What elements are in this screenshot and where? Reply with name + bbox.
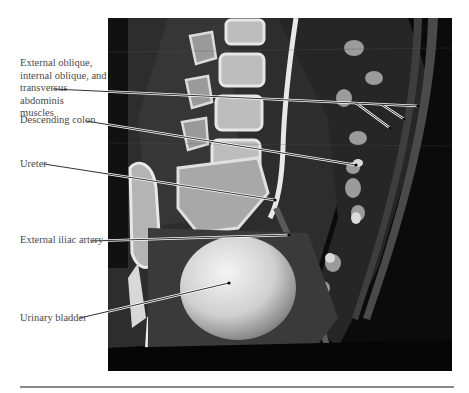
label-muscles-line-3: transversus abdominis xyxy=(20,82,110,107)
label-muscles-line-1: External oblique, xyxy=(20,57,110,70)
anatomy-figure: External oblique, internal oblique, and … xyxy=(0,0,469,393)
label-external-iliac-artery: External iliac artery xyxy=(20,234,103,247)
muscle-pointer-dot-3 xyxy=(388,126,391,129)
label-urinary-bladder: Urinary bladder xyxy=(20,312,87,325)
bottom-divider xyxy=(20,386,454,388)
ureter-pointer-dot xyxy=(273,198,276,201)
muscle-pointer-dot-2 xyxy=(402,117,405,120)
label-abdominal-muscles: External oblique, internal oblique, and … xyxy=(20,57,110,120)
label-descending-colon: Descending colon xyxy=(20,114,96,127)
label-muscles-line-2: internal oblique, and xyxy=(20,70,110,83)
bladder-pointer-dot xyxy=(227,281,230,284)
colon-pointer-dot xyxy=(354,163,357,166)
artery-pointer-dot xyxy=(287,233,290,236)
label-ureter: Ureter xyxy=(20,158,47,171)
muscle-pointer-dot-1 xyxy=(416,104,419,107)
